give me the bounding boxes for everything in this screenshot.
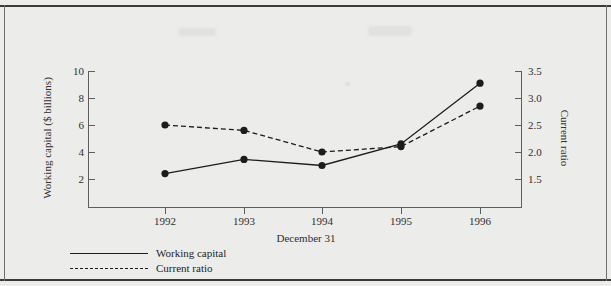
series-layer — [0, 0, 611, 286]
legend-item-working-capital: Working capital — [70, 246, 330, 261]
chart-figure: 10 8 6 4 2 3.5 3.0 2.5 2.0 1.5 1992 1993… — [0, 0, 611, 286]
plot-area: 10 8 6 4 2 3.5 3.0 2.5 2.0 1.5 1992 1993… — [0, 0, 611, 286]
legend-swatch-dashed — [70, 268, 148, 269]
data-point — [318, 162, 325, 169]
data-point — [476, 103, 483, 110]
data-point — [240, 127, 247, 134]
legend-label: Working capital — [156, 246, 226, 261]
data-point — [240, 156, 247, 163]
legend-swatch-solid — [70, 253, 148, 254]
data-point — [318, 148, 325, 155]
series-line-1 — [165, 106, 480, 152]
series-line-0 — [165, 83, 480, 173]
legend-item-current-ratio: Current ratio — [70, 261, 330, 276]
data-point — [476, 80, 483, 87]
legend-label: Current ratio — [156, 261, 213, 276]
data-point — [397, 143, 404, 150]
legend: Working capital Current ratio — [70, 246, 330, 276]
data-point — [161, 121, 168, 128]
data-point — [161, 170, 168, 177]
